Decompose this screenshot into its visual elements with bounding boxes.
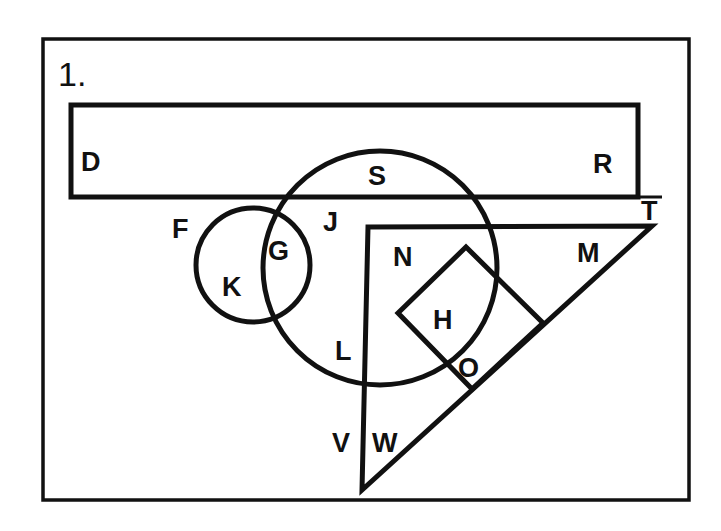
label-t: T [641, 196, 658, 226]
label-o: O [458, 353, 479, 383]
label-l: L [335, 336, 352, 366]
label-h: H [433, 305, 453, 335]
label-w: W [372, 428, 398, 458]
label-v: V [332, 428, 350, 458]
figure-number: 1. [58, 55, 86, 93]
label-g: G [268, 236, 289, 266]
label-d: D [81, 147, 101, 177]
label-n: N [393, 242, 413, 272]
label-m: M [577, 238, 600, 268]
small-circle [196, 208, 310, 322]
label-s: S [368, 161, 386, 191]
label-f: F [172, 214, 189, 244]
venn-diagram: 1. D R S T F G J K N M H L O V W [0, 0, 721, 531]
label-r: R [593, 149, 613, 179]
rectangle [71, 105, 638, 197]
label-j: J [323, 207, 338, 237]
label-k: K [222, 272, 242, 302]
